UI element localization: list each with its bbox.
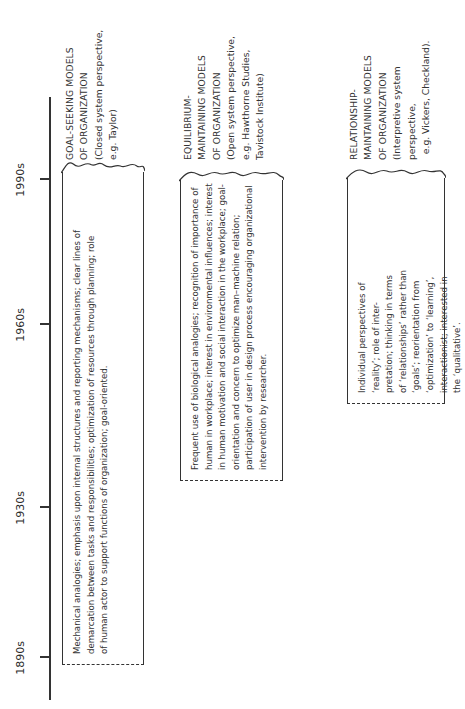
heading-line: e.g. Hawthorne Studies, xyxy=(239,36,253,160)
heading-line: OF ORGANIZATION xyxy=(77,30,91,160)
heading-line: MAINTAINING MODELS xyxy=(361,41,375,160)
description-line: ‘optimization’ to ‘learning’, xyxy=(424,270,438,393)
equilibrium-heading: EQUILIBRIUM- MAINTAINING MODELS OF ORGAN… xyxy=(181,36,267,160)
tick-label-1930s: 1930s xyxy=(14,491,27,525)
description-line: ‘reality’; role of inter- xyxy=(370,270,384,393)
heading-line: perspective, xyxy=(405,41,419,160)
heading-line: e.g. Vickers, Checkland). xyxy=(419,41,433,160)
heading-line: (Interpretive system xyxy=(390,41,404,160)
torn-edge-icon xyxy=(61,158,145,174)
organization-models-timeline-diagram: 1890s 1930s 1960s 1990s Mechanical analo… xyxy=(0,0,465,709)
heading-line: (Open system perspective, xyxy=(224,36,238,160)
tick-label-1990s: 1990s xyxy=(14,163,27,197)
torn-edge-icon xyxy=(179,167,284,182)
tick-1930s xyxy=(40,506,50,508)
tick-1960s xyxy=(40,323,50,325)
tick-1990s xyxy=(40,178,50,180)
description-line: Mechanical analogies; emphasis upon inte… xyxy=(71,230,85,654)
heading-line: MAINTAINING MODELS xyxy=(195,36,209,160)
description-line: intervention by researcher. xyxy=(257,183,271,470)
heading-line: Tavistock Institute) xyxy=(253,36,267,160)
description-line: ‘goals’; reorientation from xyxy=(410,270,424,393)
description-line: participation of user in design process … xyxy=(243,183,257,470)
heading-line: EQUILIBRIUM- xyxy=(181,36,195,160)
description-line: Individual perspectives of xyxy=(356,270,370,393)
tick-label-1960s: 1960s xyxy=(14,308,27,342)
equilibrium-description: Frequent use of biological analogies; re… xyxy=(189,183,276,470)
relationship-description: Individual perspectives of ‘reality’; ro… xyxy=(356,270,438,393)
equilibrium-model-box: Frequent use of biological analogies; re… xyxy=(180,180,283,481)
goal-seeking-model-box: Mechanical analogies; emphasis upon inte… xyxy=(62,172,144,665)
description-line: in human motivation and social interacti… xyxy=(216,183,230,470)
description-line: the ‘qualitative’. xyxy=(451,270,465,393)
description-line: of ‘relationships’ rather than xyxy=(397,270,411,393)
tick-1890s xyxy=(40,656,50,658)
description-line: of human actor to support functions of o… xyxy=(98,230,112,654)
torn-edge-icon xyxy=(346,165,446,180)
timeline-axis xyxy=(49,97,51,700)
tick-label-1890s: 1890s xyxy=(14,641,27,675)
heading-line: OF ORGANIZATION xyxy=(376,41,390,160)
heading-line: GOAL-SEEKING MODELS xyxy=(63,30,77,160)
heading-line: OF ORGANIZATION xyxy=(210,36,224,160)
relationship-heading: RELATIONSHIP- MAINTAINING MODELS OF ORGA… xyxy=(347,41,433,160)
description-line: demarcation between tasks and responsibi… xyxy=(85,230,99,654)
heading-line: e.g. Taylor) xyxy=(106,30,120,160)
description-line: interactionist; interested in xyxy=(438,270,452,393)
description-line: orientation and concern to optimize man–… xyxy=(230,183,244,470)
heading-line: (Closed system perspective, xyxy=(92,30,106,160)
heading-line: RELATIONSHIP- xyxy=(347,41,361,160)
goal-seeking-heading: GOAL-SEEKING MODELS OF ORGANIZATION (Clo… xyxy=(63,30,121,160)
goal-seeking-description: Mechanical analogies; emphasis upon inte… xyxy=(71,230,137,654)
description-line: pretation; thinking in terms xyxy=(383,270,397,393)
description-line: human in workplace; interest in environm… xyxy=(203,183,217,470)
relationship-model-box: Individual perspectives of ‘reality’; ro… xyxy=(347,178,445,404)
description-line: Frequent use of biological analogies; re… xyxy=(189,183,203,470)
